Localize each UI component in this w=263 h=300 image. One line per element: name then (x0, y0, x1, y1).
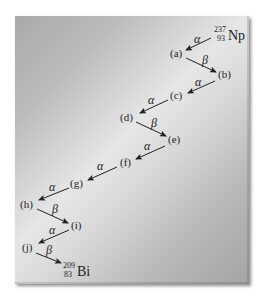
arrow-b-to-c (188, 81, 215, 93)
bi-symbol: Bi (77, 264, 90, 279)
decay-label-alpha: α (195, 75, 202, 89)
node-a: (a) (170, 47, 183, 60)
node-f: (f) (120, 156, 131, 169)
np-symbol: Np (228, 28, 245, 43)
bi-mass-number: 209 (63, 261, 75, 270)
start-isotope-np: 237 93 Np (214, 25, 245, 43)
node-b: (b) (218, 68, 231, 81)
decay-label-beta: β (45, 243, 52, 257)
node-h: (h) (20, 198, 33, 211)
node-d: (d) (120, 111, 133, 124)
decay-label-alpha: α (194, 32, 201, 46)
arrow-e-to-f (136, 146, 165, 159)
decay-label-beta: β (201, 53, 208, 67)
decay-series-diagram: 237 93 Np α (a) β (b) α (c) α (d) β (e) … (0, 0, 263, 300)
node-j: (j) (22, 241, 33, 254)
bi-atomic-number: 83 (64, 270, 72, 279)
node-g: (g) (70, 177, 83, 190)
decay-label-beta: β (51, 202, 58, 216)
decay-label-alpha: α (148, 93, 155, 107)
node-i: (i) (71, 219, 82, 232)
decay-label-beta: β (150, 116, 157, 130)
decay-label-alpha: α (144, 139, 151, 153)
arrow-a-to-b (186, 58, 216, 72)
decay-label-alpha: α (49, 223, 56, 237)
node-c: (c) (170, 89, 183, 102)
np-atomic-number: 93 (217, 34, 225, 43)
decay-label-alpha: α (97, 159, 104, 173)
end-isotope-bi: 209 83 Bi (63, 261, 90, 279)
node-e: (e) (168, 133, 181, 146)
np-mass-number: 237 (214, 25, 226, 34)
decay-label-alpha: α (49, 180, 56, 194)
